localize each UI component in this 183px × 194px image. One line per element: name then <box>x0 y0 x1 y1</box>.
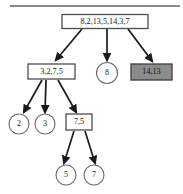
node-leaf-5-label: 5 <box>64 170 68 179</box>
tree-canvas: 8,2,13,5,14,3,7 3,2,7,5 8 14,13 2 <box>0 0 183 194</box>
node-leaf-2-label: 2 <box>17 119 21 128</box>
edge-root-to-left <box>56 29 82 60</box>
node-right-shaded-label: 14,13 <box>142 67 160 76</box>
recursion-tree-figure: 8,2,13,5,14,3,7 3,2,7,5 8 14,13 2 <box>0 0 183 194</box>
tree-edges-group <box>24 29 152 163</box>
node-leaf-7-label: 7 <box>92 170 96 179</box>
edge-root-to-right <box>128 29 152 61</box>
node-right-shaded[interactable]: 14,13 <box>131 64 172 80</box>
node-leaf-3[interactable]: 3 <box>35 114 55 134</box>
node-root[interactable]: 8,2,13,5,14,3,7 <box>62 15 148 29</box>
node-middle-leaf-label: 8 <box>105 68 109 77</box>
node-leaf-5[interactable]: 5 <box>56 165 76 185</box>
node-sub-75-label: 7,5 <box>74 117 84 126</box>
node-sub-75[interactable]: 7,5 <box>66 114 92 130</box>
tree-nodes-group: 8,2,13,5,14,3,7 3,2,7,5 8 14,13 2 <box>9 15 172 186</box>
node-leaf-3-label: 3 <box>43 119 47 128</box>
edge-left-to-node75 <box>58 80 76 112</box>
edge-node75-to-node7 <box>85 131 95 163</box>
node-root-label: 8,2,13,5,14,3,7 <box>80 17 129 26</box>
edge-left-to-node2 <box>24 80 42 112</box>
node-middle-leaf[interactable]: 8 <box>97 63 118 84</box>
edge-left-to-node3 <box>45 80 46 112</box>
node-leaf-7[interactable]: 7 <box>84 165 104 185</box>
edge-node75-to-node5 <box>64 131 74 163</box>
node-leaf-2[interactable]: 2 <box>9 114 29 134</box>
node-left-subarray-label: 3,2,7,5 <box>40 67 63 76</box>
node-left-subarray[interactable]: 3,2,7,5 <box>28 64 75 79</box>
